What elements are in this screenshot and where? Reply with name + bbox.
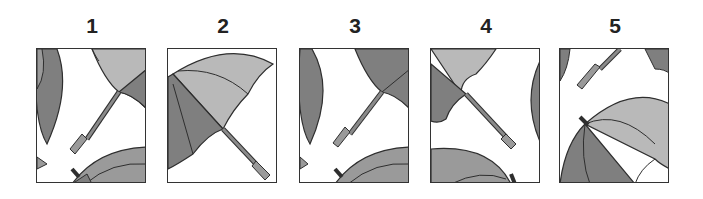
option-1[interactable]: 1 — [36, 0, 148, 199]
umbrella-fragment-icon — [300, 49, 409, 183]
option-image — [167, 48, 277, 183]
umbrella-fragment-icon — [560, 49, 669, 183]
option-label: 5 — [559, 14, 671, 38]
umbrella-fragment-icon — [37, 49, 146, 183]
umbrella-fragment-icon — [431, 49, 540, 183]
option-label: 1 — [36, 14, 148, 38]
umbrella-fragment-icon — [168, 49, 277, 183]
option-4[interactable]: 4 — [430, 0, 542, 199]
option-3[interactable]: 3 — [299, 0, 411, 199]
option-image — [36, 48, 146, 183]
option-image — [299, 48, 409, 183]
option-image — [559, 48, 669, 183]
option-2[interactable]: 2 — [167, 0, 279, 199]
option-label: 3 — [299, 14, 411, 38]
option-5[interactable]: 5 — [559, 0, 671, 199]
option-label: 4 — [430, 14, 542, 38]
option-image — [430, 48, 540, 183]
option-label: 2 — [167, 14, 279, 38]
